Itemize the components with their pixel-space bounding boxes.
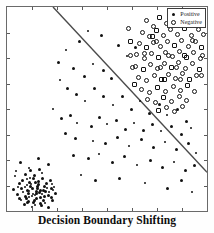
data-point-positive (51, 199, 54, 202)
data-point-positive (72, 154, 75, 157)
data-point-negative (185, 83, 190, 88)
data-point-positive (19, 161, 22, 164)
data-point-positive (32, 177, 35, 180)
data-point-positive (15, 170, 17, 172)
data-point-negative (152, 73, 157, 78)
data-point-positive (160, 130, 162, 132)
data-point-negative (192, 89, 197, 94)
data-point-positive (41, 172, 43, 174)
axis-tick (82, 7, 83, 10)
data-point-positive (17, 186, 19, 188)
data-point-negative (158, 44, 163, 49)
data-point-positive (51, 183, 53, 185)
data-point-positive (21, 179, 24, 182)
data-point-positive (130, 108, 133, 111)
data-point-negative (178, 77, 183, 82)
data-point-negative (144, 18, 149, 23)
data-point-positive (43, 195, 46, 198)
data-point-negative (162, 77, 167, 82)
data-point-negative (180, 104, 185, 109)
data-point-positive (111, 161, 114, 164)
data-point-negative (130, 65, 135, 70)
data-point-positive (121, 95, 124, 98)
data-point-positive (16, 193, 19, 196)
axis-tick (7, 84, 10, 85)
data-point-negative (147, 90, 152, 95)
data-point-negative (150, 34, 155, 39)
data-point-negative (174, 65, 179, 70)
data-point-positive (34, 204, 36, 206)
axis-tick (132, 7, 133, 10)
data-point-negative (180, 71, 185, 76)
data-point-positive (12, 188, 15, 191)
data-point-positive (42, 189, 45, 192)
data-point-negative (140, 30, 145, 35)
data-point-negative (189, 33, 194, 38)
data-point-negative (196, 27, 201, 32)
legend: Positive Negative (167, 8, 206, 28)
data-point-positive (140, 138, 143, 141)
data-point-positive (106, 123, 108, 125)
data-point-positive (115, 119, 118, 122)
data-point-positive (41, 177, 44, 180)
data-point-positive (87, 157, 90, 160)
axis-tick (157, 7, 158, 10)
data-point-positive (151, 123, 154, 126)
axis-tick (32, 208, 33, 211)
data-point-negative (199, 73, 204, 78)
data-point-negative (165, 39, 170, 44)
data-point-negative (142, 51, 147, 56)
data-point-positive (136, 164, 138, 166)
data-point-negative (144, 45, 149, 50)
data-point-positive (187, 142, 190, 145)
data-point-negative (187, 77, 192, 82)
data-point-positive (83, 75, 86, 78)
data-point-negative (161, 95, 166, 100)
data-point-positive (53, 186, 55, 188)
scatter-plot: Positive Negative (6, 6, 208, 212)
data-point-negative (186, 44, 191, 49)
axis-tick (107, 208, 108, 211)
data-point-positive (24, 173, 27, 176)
data-point-positive (50, 187, 53, 190)
data-point-positive (50, 196, 53, 199)
data-point-negative (156, 108, 161, 113)
data-point-positive (54, 192, 57, 195)
data-point-positive (76, 122, 78, 124)
data-point-positive (33, 174, 36, 177)
data-point-positive (28, 196, 30, 198)
axis-tick (57, 208, 58, 211)
data-point-positive (148, 112, 151, 115)
data-point-negative (137, 41, 142, 46)
axis-tick (204, 186, 207, 187)
axis-tick (7, 160, 10, 161)
data-point-positive (66, 87, 69, 90)
data-point-positive (118, 177, 121, 180)
data-point-negative (148, 62, 153, 67)
data-point-positive (37, 157, 40, 160)
data-point-negative (179, 38, 184, 43)
data-point-positive (180, 133, 183, 136)
legend-label-positive: Positive (180, 10, 199, 18)
data-point-negative (155, 85, 160, 90)
data-point-positive (175, 148, 178, 151)
data-point-positive (92, 63, 94, 65)
data-point-positive (35, 197, 38, 200)
data-point-positive (44, 202, 46, 204)
axis-tick (204, 109, 207, 110)
data-point-negative (169, 99, 174, 104)
data-point-positive (74, 137, 77, 140)
data-point-negative (144, 78, 149, 83)
legend-label-negative: Negative (180, 18, 202, 26)
data-point-positive (184, 169, 187, 172)
data-point-negative (190, 61, 195, 66)
axis-tick (7, 135, 10, 136)
data-point-positive (100, 34, 103, 37)
axis-tick (7, 58, 10, 59)
data-point-negative (153, 100, 158, 105)
axis-tick (82, 208, 83, 211)
axis-tick (32, 7, 33, 10)
data-point-positive (112, 104, 114, 106)
data-point-positive (31, 187, 34, 190)
data-point-negative (128, 39, 133, 44)
